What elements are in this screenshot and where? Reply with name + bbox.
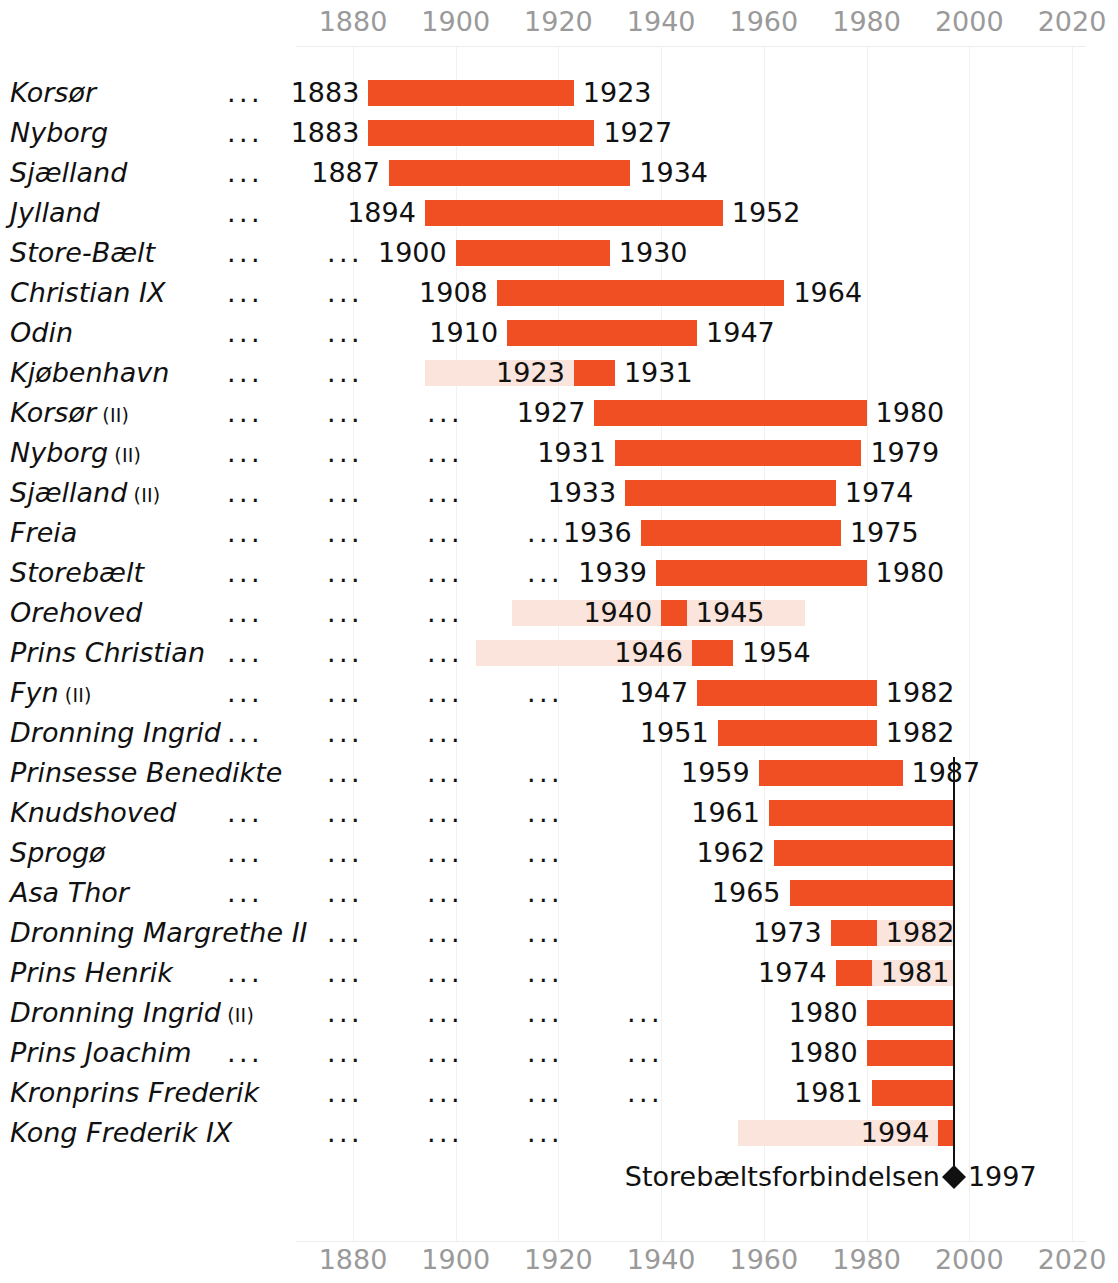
leader-dots: ... [427,633,463,673]
timeline-row: Kjøbenhavn......19231931 [0,353,1118,393]
end-year-label: 1931 [615,353,693,393]
start-year-label: 1939 [578,553,656,593]
timeline-row: Sjælland...18871934 [0,153,1118,193]
leader-dots: ... [427,433,463,473]
row-label: Orehoved [10,593,142,633]
leader-dots: ... [327,633,363,673]
leader-dots: ... [427,473,463,513]
leader-dots: ... [527,673,563,713]
timeline-row: Asa Thor............1965 [0,873,1118,913]
timeline-row: Dronning Margrethe II.........19731982 [0,913,1118,953]
row-label-suffix: (II) [127,484,160,506]
timeline-row: Sprogø............1962 [0,833,1118,873]
leader-dots: ... [227,393,263,433]
row-label: Fyn (II) [10,673,92,713]
start-year-label: 1961 [691,793,769,833]
service-bar [867,1000,954,1026]
service-bar [774,840,954,866]
leader-dots: ... [227,953,263,993]
leader-dots: ... [427,553,463,593]
start-year-label: 1883 [291,73,369,113]
timeline-row: Prins Henrik............19741981 [0,953,1118,993]
row-label: Kronprins Frederik [10,1073,259,1113]
bottom-tick-1900: 1900 [421,1244,490,1275]
row-label: Dronning Ingrid (II) [10,993,254,1033]
leader-dots: ... [227,113,263,153]
row-label: Asa Thor [10,873,129,913]
start-year-label: 1959 [681,753,759,793]
service-bar [759,760,903,786]
leader-dots: ... [527,553,563,593]
service-bar [497,280,785,306]
row-label: Nyborg [10,113,108,153]
leader-dots: ... [427,393,463,433]
end-year-label: 1975 [841,513,919,553]
start-year-label: 1894 [347,193,425,233]
end-year-label: 1923 [574,73,652,113]
timeline-row: Dronning Ingrid.........19511982 [0,713,1118,753]
end-year-label: 1945 [687,593,765,633]
leader-dots: ... [327,1073,363,1113]
end-year-label: 1974 [836,473,914,513]
start-year-label: 1951 [640,713,718,753]
start-year-label: 1940 [583,593,661,633]
leader-dots: ... [627,993,663,1033]
leader-dots: ... [527,1033,563,1073]
row-label-suffix: (II) [59,684,92,706]
row-label: Sprogø [10,833,106,873]
end-year-label: 1927 [594,113,672,153]
bottom-tick-1960: 1960 [729,1244,798,1275]
leader-dots: ... [527,913,563,953]
service-bar [507,320,697,346]
leader-dots: ... [527,873,563,913]
timeline-row: Prins Joachim...............1980 [0,1033,1118,1073]
leader-dots: ... [427,593,463,633]
timeline-row: Store-Bælt......19001930 [0,233,1118,273]
end-year-label: 1979 [861,433,939,473]
leader-dots: ... [227,1033,263,1073]
leader-dots: ... [327,233,363,273]
row-label: Christian IX [10,273,165,313]
timeline-chart: 18801900192019401960198020002020 1880190… [0,0,1118,1283]
start-year-label: 1887 [311,153,389,193]
timeline-row: Dronning Ingrid (II)............1980 [0,993,1118,1033]
timeline-row: Christian IX......19081964 [0,273,1118,313]
end-year-label: 1954 [733,633,811,673]
start-year-label: 1974 [758,953,836,993]
top-tick-1900: 1900 [421,6,490,37]
leader-dots: ... [327,353,363,393]
timeline-row: Korsør (II).........19271980 [0,393,1118,433]
leader-dots: ... [427,673,463,713]
row-label-suffix: (II) [221,1004,254,1026]
leader-dots: ... [527,753,563,793]
service-bar [692,640,733,666]
leader-dots: ... [227,513,263,553]
service-bar [594,400,866,426]
bridge-marker-label: Storebæltsforbindelsen [625,1157,954,1197]
start-year-label: 1927 [517,393,595,433]
service-bar [656,560,867,586]
service-bar [641,520,841,546]
leader-dots: ... [527,513,563,553]
row-label: Store-Bælt [10,233,155,273]
start-year-label: 1965 [712,873,790,913]
leader-dots: ... [627,1033,663,1073]
row-label: Kjøbenhavn [10,353,169,393]
bridge-reference-line [953,757,955,1179]
start-year-label: 1962 [696,833,774,873]
service-bar [769,800,954,826]
timeline-row: Kong Frederik IX.........1994 [0,1113,1118,1153]
leader-dots: ... [427,793,463,833]
top-tick-2000: 2000 [935,6,1004,37]
leader-dots: ... [427,513,463,553]
start-year-label: 1931 [537,433,615,473]
start-year-label: 1936 [563,513,641,553]
start-year-label: 1933 [547,473,625,513]
row-label: Dronning Margrethe II [10,913,308,953]
row-label: Knudshoved [10,793,177,833]
leader-dots: ... [227,673,263,713]
leader-dots: ... [427,913,463,953]
leader-dots: ... [627,1073,663,1113]
end-year-label: 1980 [867,553,945,593]
start-year-label: 1980 [789,993,867,1033]
